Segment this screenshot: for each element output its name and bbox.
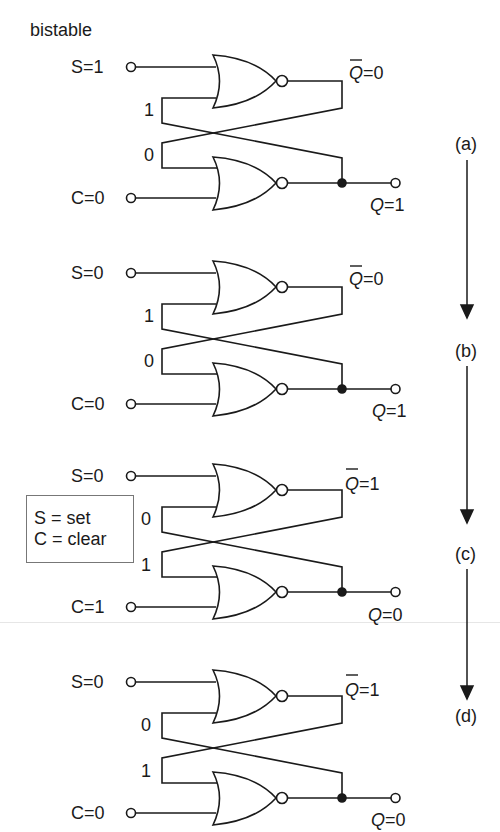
- q-symbol-a: Q: [370, 195, 384, 215]
- feedback-top-c: 0: [141, 509, 151, 529]
- qbar-value-d: =1: [359, 680, 380, 700]
- q-value-c: =0: [382, 605, 403, 625]
- feedback-bottom-c: 1: [141, 555, 151, 575]
- legend-set: S = set: [34, 508, 133, 529]
- qbar-symbol-a: Q: [349, 63, 363, 83]
- feedback-bottom-d: 1: [141, 761, 151, 781]
- input-c-label-a: C=0: [71, 188, 105, 208]
- input-s-label-b: S=0: [71, 263, 104, 283]
- q-value-d: =0: [385, 810, 406, 830]
- legend-box: S = set C = clear: [26, 495, 134, 563]
- feedback-top-b: 1: [144, 306, 154, 326]
- qbar-value-c: =1: [359, 474, 380, 494]
- input-s-label-c: S=0: [71, 466, 104, 486]
- q-value-a: =1: [384, 195, 405, 215]
- q-symbol-b: Q: [372, 401, 386, 421]
- input-s-label-a: S=1: [71, 57, 104, 77]
- legend-clear: C = clear: [34, 529, 133, 550]
- stage-label-c: (c): [455, 544, 476, 564]
- q-value-b: =1: [386, 401, 407, 421]
- stage-label-a: (a): [455, 134, 477, 154]
- input-c-label-c: C=1: [71, 597, 105, 617]
- q-symbol-d: Q: [371, 810, 385, 830]
- stage-label-d: (d): [455, 706, 477, 726]
- qbar-symbol-d: Q: [345, 680, 359, 700]
- input-c-label-d: C=0: [71, 803, 105, 823]
- q-symbol-c: Q: [368, 605, 382, 625]
- qbar-symbol-b: Q: [349, 269, 363, 289]
- feedback-top-d: 0: [141, 715, 151, 735]
- input-s-label-d: S=0: [71, 672, 104, 692]
- qbar-value-b: =0: [363, 269, 384, 289]
- feedback-top-a: 1: [144, 100, 154, 120]
- bistable-diagram: S=1 C=0 1 0 Q =0 Q =1 (a) S=0 C=0 1 0 Q …: [0, 0, 500, 832]
- input-c-label-b: C=0: [71, 394, 105, 414]
- feedback-bottom-b: 0: [144, 351, 154, 371]
- feedback-bottom-a: 0: [144, 145, 154, 165]
- sequence-arrows: [461, 160, 473, 699]
- qbar-value-a: =0: [363, 63, 384, 83]
- qbar-overbars: [346, 60, 362, 675]
- stage-label-b: (b): [455, 341, 477, 361]
- qbar-symbol-c: Q: [345, 474, 359, 494]
